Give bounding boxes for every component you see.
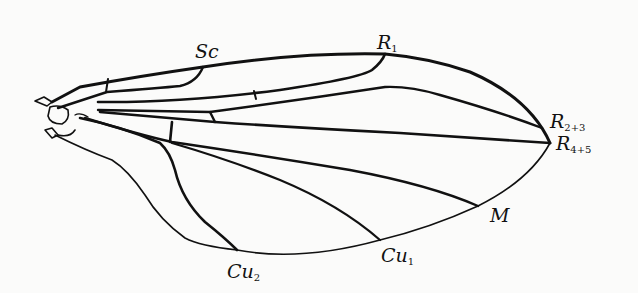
label-cu1: Cu1 (381, 246, 414, 267)
wing-posterior-margin (55, 135, 237, 250)
label-r4-5-text: R (556, 132, 570, 154)
anterior-crossvein (170, 122, 172, 142)
label-r2-3-text: R (550, 110, 564, 132)
label-m: M (490, 206, 509, 227)
label-cu1-sub: 1 (408, 256, 414, 267)
label-cu2: Cu2 (227, 262, 260, 283)
r4-5-vein (100, 112, 550, 143)
wing-venation-figure: Sc R1 R2+3 R4+5 M Cu1 Cu2 (0, 0, 638, 293)
label-sc: Sc (195, 42, 219, 63)
jugal-fold (75, 114, 88, 117)
label-r4-5-sub: 4+5 (570, 144, 591, 155)
label-r1-sub: 1 (391, 43, 397, 54)
alula-sclerite (45, 128, 58, 138)
label-r4-5: R4+5 (556, 134, 591, 155)
label-cu1-text: Cu (381, 244, 408, 266)
label-m-text: M (490, 204, 509, 226)
label-r2-3: R2+3 (550, 112, 585, 133)
label-r1-text: R (377, 31, 391, 53)
wing-base-sclerite (35, 97, 52, 106)
alula-hook (58, 130, 75, 136)
label-cu2-sub: 2 (254, 272, 260, 283)
r2-3-vein (98, 87, 542, 128)
wing-drawing (0, 0, 638, 293)
label-sc-text: Sc (195, 40, 219, 62)
label-cu2-text: Cu (227, 260, 254, 282)
label-r1: R1 (377, 33, 398, 54)
